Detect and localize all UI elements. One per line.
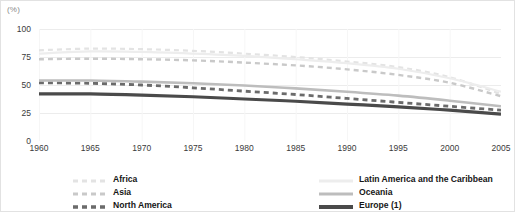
x-axis-tick-label: 1990 — [338, 143, 357, 153]
y-axis-tick-label: 100 — [1, 24, 31, 34]
x-axis-tick-label: 1975 — [184, 143, 203, 153]
legend-label: Oceania — [359, 187, 392, 197]
legend-item[interactable]: Oceania — [319, 186, 493, 198]
legend-swatch-icon — [319, 173, 353, 185]
y-axis-tick-label: 25 — [1, 108, 31, 118]
x-axis-tick-labels: 1960196519701975198019851990199520002005 — [39, 143, 501, 159]
legend-column-right: Latin America and the CaribbeanOceaniaEu… — [319, 173, 493, 212]
legend-item[interactable]: North America — [73, 199, 172, 211]
legend-column-left: AfricaAsiaNorth America — [73, 173, 172, 212]
y-axis-tick-labels: 0255075100 — [1, 29, 35, 141]
chart-legend: AfricaAsiaNorth America Latin America an… — [1, 173, 515, 212]
legend-item[interactable]: Africa — [73, 173, 172, 185]
legend-swatch-icon — [73, 199, 107, 211]
legend-swatch-icon — [73, 173, 107, 185]
y-axis-tick-label: 50 — [1, 80, 31, 90]
x-axis-tick-label: 2000 — [440, 143, 459, 153]
legend-label: Asia — [113, 187, 131, 197]
x-axis-tick-label: 1965 — [81, 143, 100, 153]
legend-label: Africa — [113, 174, 137, 184]
x-axis-tick-label: 2005 — [492, 143, 511, 153]
legend-label: Europe (1) — [359, 200, 402, 210]
x-axis-tick-label: 1985 — [286, 143, 305, 153]
y-axis-tick-label: 0 — [1, 136, 31, 146]
legend-item[interactable]: Europe (1) — [319, 199, 493, 211]
line-chart-figure: (%) 0255075100 1960196519701975198019851… — [0, 0, 515, 212]
plot-area — [39, 29, 501, 141]
x-axis-tick-label: 1960 — [30, 143, 49, 153]
chart-series-canvas — [39, 29, 501, 141]
y-axis-unit-label: (%) — [7, 5, 20, 14]
series-line — [39, 94, 501, 114]
legend-swatch-icon — [319, 186, 353, 198]
x-axis-tick-label: 1980 — [235, 143, 254, 153]
legend-swatch-icon — [319, 199, 353, 211]
x-axis-tick-label: 1970 — [132, 143, 151, 153]
legend-label: Latin America and the Caribbean — [359, 174, 493, 184]
series-line — [39, 59, 501, 97]
legend-item[interactable]: Latin America and the Caribbean — [319, 173, 493, 185]
y-axis-tick-label: 75 — [1, 52, 31, 62]
x-axis-tick-label: 1995 — [389, 143, 408, 153]
legend-label: North America — [113, 200, 172, 210]
legend-item[interactable]: Asia — [73, 186, 172, 198]
legend-swatch-icon — [73, 186, 107, 198]
